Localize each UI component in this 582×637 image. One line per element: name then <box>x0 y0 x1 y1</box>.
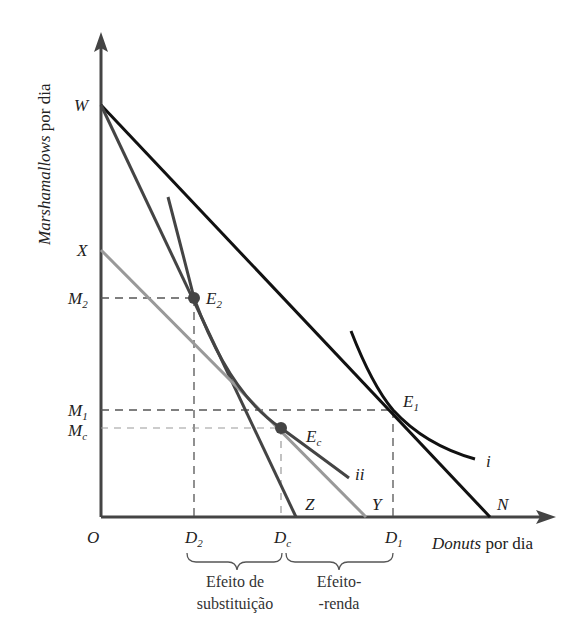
label-N: N <box>496 495 510 514</box>
label-Mc: Mc <box>67 421 87 442</box>
income-effect-label-2: -renda <box>319 595 360 612</box>
label-W: W <box>74 96 90 115</box>
label-curve-ii: ii <box>355 465 365 484</box>
label-E1: E1 <box>402 392 419 413</box>
income-effect-label-1: Efeito- <box>317 573 361 590</box>
budget-line-XY <box>101 250 366 517</box>
label-X: X <box>76 241 88 260</box>
point-E2 <box>188 292 200 304</box>
label-M2: M2 <box>67 289 88 310</box>
compensated-guide-lines <box>101 428 281 517</box>
label-Dc: Dc <box>273 528 291 549</box>
label-D1: D1 <box>384 528 403 549</box>
label-M1: M1 <box>67 401 88 422</box>
label-Ec: Ec <box>305 427 321 448</box>
income-brace <box>286 553 393 570</box>
budget-line-WN <box>101 105 490 517</box>
label-D2: D2 <box>184 528 203 549</box>
substitution-effect-label-2: substituição <box>197 595 273 613</box>
label-Y: Y <box>372 495 383 514</box>
income-substitution-diagram: Marshamallows por dia W X M2 M1 Mc O D2 … <box>0 0 582 637</box>
point-Ec <box>275 422 287 434</box>
label-Z: Z <box>305 495 315 514</box>
substitution-brace <box>187 553 282 570</box>
label-E2: E2 <box>205 289 222 310</box>
y-axis-label: Marshamallows por dia <box>35 83 54 246</box>
substitution-effect-label-1: Efeito de <box>206 573 264 590</box>
label-curve-i: i <box>486 452 491 471</box>
label-origin: O <box>87 528 99 547</box>
guide-lines <box>101 298 393 517</box>
x-axis-label: Donuts por dia <box>431 534 534 553</box>
